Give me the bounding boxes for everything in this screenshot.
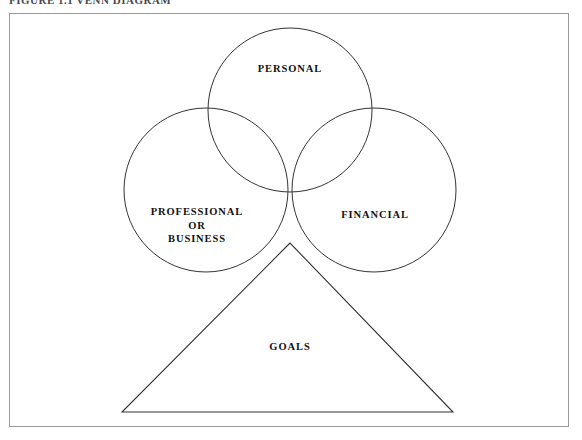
label-financial: FINANCIAL — [341, 208, 409, 222]
page-canvas: FIGURE 1.1 VENN DIAGRAM PERSONAL PROFESS… — [0, 0, 582, 440]
goals-triangle — [122, 243, 453, 412]
label-personal: PERSONAL — [258, 62, 322, 76]
label-professional-or-business: PROFESSIONAL OR BUSINESS — [151, 205, 243, 246]
label-goals: GOALS — [269, 340, 310, 354]
circle-financial — [292, 108, 456, 272]
circle-personal — [208, 28, 372, 192]
circle-professional-or-business — [124, 108, 288, 272]
